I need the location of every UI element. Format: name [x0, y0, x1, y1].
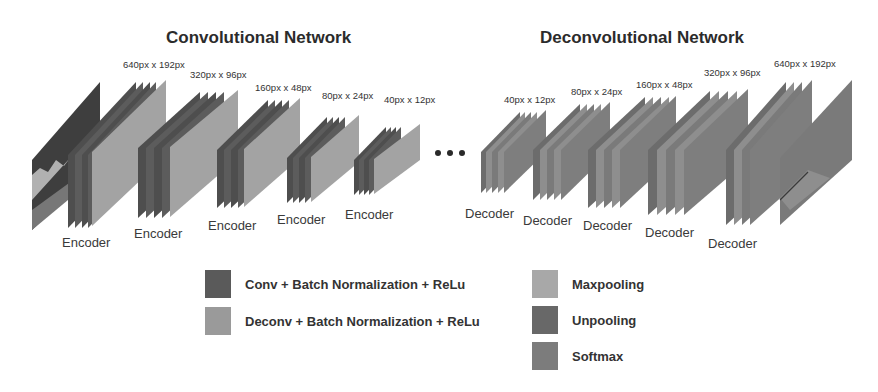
- encoder-label-5: Encoder: [345, 207, 393, 222]
- legend-conv: Conv + Batch Normalization + ReLu: [205, 270, 465, 298]
- encoder-label-4: Encoder: [277, 212, 325, 227]
- decoder-size-1: 40px x 12px: [504, 94, 555, 105]
- decoder-label-1: Decoder: [465, 206, 514, 221]
- encoder-size-4: 80px x 24px: [322, 90, 373, 101]
- legend-swatch-unpooling: [532, 306, 558, 334]
- legend-maxpooling: Maxpooling: [532, 270, 644, 298]
- decoder-size-5: 640px x 192px: [774, 58, 836, 69]
- decoder-label-2: Decoder: [523, 213, 572, 228]
- legend-deconv: Deconv + Batch Normalization + ReLu: [205, 307, 480, 335]
- ellipsis-dot: [459, 150, 465, 156]
- ellipsis-dot: [435, 150, 441, 156]
- decoder-label-3: Decoder: [583, 218, 632, 233]
- decoder-label-4: Decoder: [645, 225, 694, 240]
- legend-swatch-conv: [205, 270, 231, 298]
- encoder-label-1: Encoder: [62, 235, 110, 250]
- decoder-label-5: Decoder: [708, 236, 757, 251]
- encoder-label-2: Encoder: [134, 226, 182, 241]
- encoder-size-1: 640px x 192px: [123, 59, 185, 70]
- encoder-label-3: Encoder: [208, 218, 256, 233]
- legend-label-unpooling: Unpooling: [572, 313, 636, 328]
- legend-label-deconv: Deconv + Batch Normalization + ReLu: [245, 314, 480, 329]
- ellipsis-dot: [447, 150, 453, 156]
- decoder-size-3: 160px x 48px: [636, 79, 693, 90]
- legend-swatch-softmax: [532, 342, 558, 370]
- encoder-size-2: 320px x 96px: [190, 69, 247, 80]
- legend-label-maxpooling: Maxpooling: [572, 277, 644, 292]
- decoder-size-4: 320px x 96px: [704, 67, 761, 78]
- legend-label-softmax: Softmax: [572, 349, 623, 364]
- legend-unpooling: Unpooling: [532, 306, 636, 334]
- legend-swatch-maxpooling: [532, 270, 558, 298]
- decoder-size-2: 80px x 24px: [571, 86, 622, 97]
- legend-softmax: Softmax: [532, 342, 623, 370]
- encoder-block-5: [354, 124, 420, 195]
- encoder-size-5: 40px x 12px: [384, 94, 435, 105]
- encoder-size-3: 160px x 48px: [255, 82, 312, 93]
- legend-label-conv: Conv + Batch Normalization + ReLu: [245, 277, 465, 292]
- legend-swatch-deconv: [205, 307, 231, 335]
